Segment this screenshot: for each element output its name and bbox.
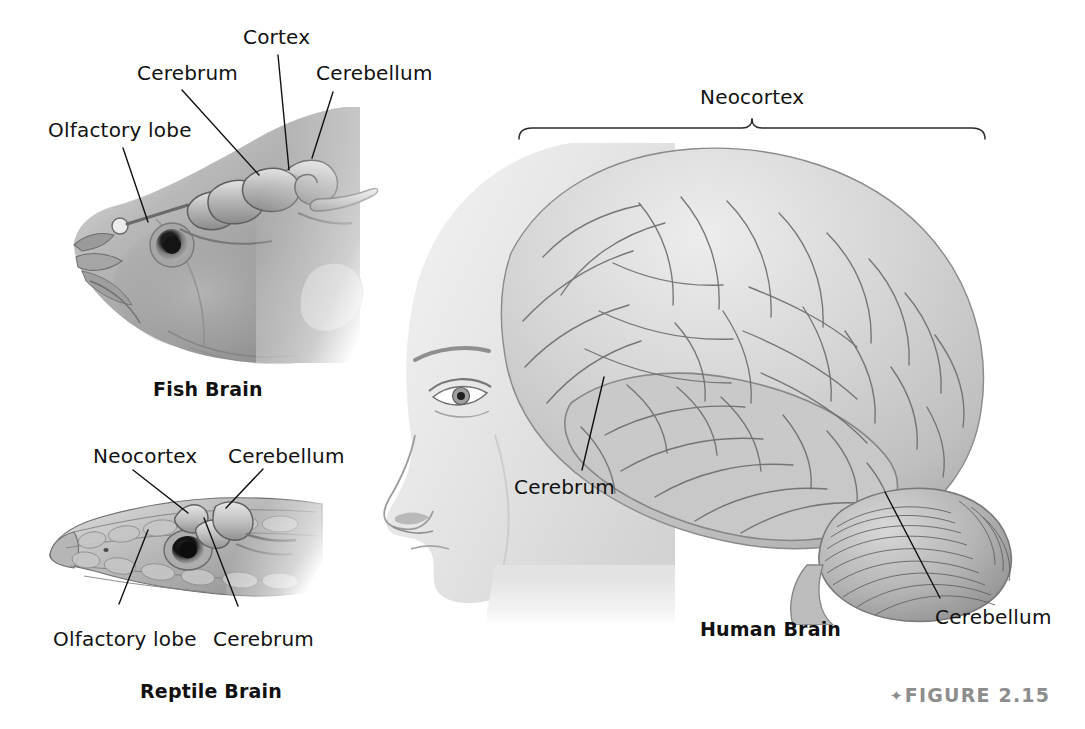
reptile-brain-caption: Reptile Brain <box>140 680 282 702</box>
figure-number: ✦FIGURE 2.15 <box>890 684 1050 706</box>
human-brain-illustration <box>375 135 1035 625</box>
reptile-label-neocortex: Neocortex <box>93 444 197 468</box>
human-label-neocortex: Neocortex <box>700 85 804 109</box>
fish-brain-caption: Fish Brain <box>153 378 263 400</box>
human-label-cerebellum: Cerebellum <box>935 605 1052 629</box>
reptile-label-olfactory-lobe: Olfactory lobe <box>53 627 197 651</box>
reptile-label-cerebellum: Cerebellum <box>228 444 345 468</box>
figure-number-text: FIGURE 2.15 <box>905 684 1050 706</box>
leader-lines <box>0 0 1085 729</box>
human-label-cerebrum: Cerebrum <box>514 475 615 499</box>
figure-container: Olfactory lobe Cerebrum Cortex Cerebellu… <box>0 0 1085 729</box>
fish-label-cerebellum: Cerebellum <box>316 61 433 85</box>
fish-label-cortex: Cortex <box>243 25 310 49</box>
reptile-label-cerebrum: Cerebrum <box>213 627 314 651</box>
reptile-brain-illustration <box>40 480 340 620</box>
fish-label-cerebrum: Cerebrum <box>137 61 238 85</box>
neocortex-bracket <box>519 119 985 139</box>
fish-label-olfactory-lobe: Olfactory lobe <box>48 118 192 142</box>
figure-diamond-icon: ✦ <box>890 687 904 705</box>
human-brain-caption: Human Brain <box>700 618 841 640</box>
